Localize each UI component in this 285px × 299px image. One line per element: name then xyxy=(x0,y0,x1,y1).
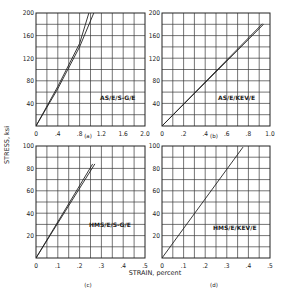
x-tick-label: .4 xyxy=(55,130,61,138)
x-tick-label: .4 xyxy=(246,262,252,270)
x-tick-label: .4 xyxy=(202,130,208,138)
x-tick-label: .8 xyxy=(246,130,252,138)
panel-caption: (a) xyxy=(84,133,92,139)
y-tick-label: 80 xyxy=(27,165,35,173)
x-tick-label: .1 xyxy=(181,262,187,270)
y-tick-label: 120 xyxy=(23,55,34,63)
y-tick-label: 40 xyxy=(153,210,161,218)
y-tick-label: 40 xyxy=(153,100,161,108)
x-tick-label: 1.2 xyxy=(97,130,107,138)
y-axis-label: STRESS, ksi xyxy=(3,126,11,164)
x-tick-label: 1.6 xyxy=(119,130,129,138)
y-tick-label: 80 xyxy=(153,165,161,173)
x-tick-label: .3 xyxy=(99,262,105,270)
chart-panel-d: 0.1.2.3.4.520406080100HMS/E/KEV/E(d) xyxy=(149,142,273,288)
material-annotation: HMS/E/KEV/E xyxy=(213,224,256,231)
x-axis-label: STRAIN, percent xyxy=(129,269,182,277)
panel-caption: (d) xyxy=(210,282,218,288)
y-tick-label: 20 xyxy=(27,232,35,240)
panel-caption: (b) xyxy=(210,133,218,139)
y-tick-label: 200 xyxy=(149,9,160,17)
chart-panel-a: 0.4.81.21.62.04080120160200AS/E/S-G/E(a) xyxy=(23,9,150,139)
x-tick-label: 2.0 xyxy=(140,130,150,138)
y-tick-label: 20 xyxy=(153,232,161,240)
x-tick-label: .3 xyxy=(224,262,230,270)
x-tick-label: .1 xyxy=(55,262,61,270)
y-tick-label: 80 xyxy=(27,77,35,85)
figure-stress-strain: 0.4.81.21.62.04080120160200AS/E/S-G/E(a)… xyxy=(0,0,285,299)
x-tick-label: 0 xyxy=(34,130,38,138)
material-annotation: HMS/E/S-G/E xyxy=(89,221,131,228)
y-tick-label: 80 xyxy=(153,77,161,85)
x-tick-label: 0 xyxy=(34,262,38,270)
y-tick-label: 60 xyxy=(27,187,35,195)
x-tick-label: .5 xyxy=(267,262,273,270)
y-tick-label: 40 xyxy=(27,100,35,108)
panels-group: 0.4.81.21.62.04080120160200AS/E/S-G/E(a)… xyxy=(23,9,275,288)
y-tick-label: 40 xyxy=(27,210,35,218)
x-tick-label: .4 xyxy=(120,262,126,270)
x-tick-label: .6 xyxy=(224,130,230,138)
y-tick-label: 100 xyxy=(23,142,34,150)
chart-panel-c: 0.1.2.3.4.520406080100HMS/E/S-G/E(c) xyxy=(23,142,148,288)
x-tick-label: 1.0 xyxy=(265,130,275,138)
grid-lines xyxy=(36,146,145,258)
data-series-line xyxy=(36,164,95,258)
chart-panel-b: 0.2.4.6.81.04080120160200AS/E/KEV/E(b) xyxy=(149,9,275,139)
x-tick-label: .8 xyxy=(77,130,83,138)
y-tick-label: 120 xyxy=(149,55,160,63)
grid-lines xyxy=(162,146,270,258)
y-tick-label: 160 xyxy=(23,32,34,40)
x-tick-label: .2 xyxy=(202,262,208,270)
y-tick-label: 60 xyxy=(153,187,161,195)
data-series-line xyxy=(162,147,243,258)
panel-caption: (c) xyxy=(84,282,91,288)
x-tick-label: .2 xyxy=(181,130,187,138)
y-tick-label: 200 xyxy=(23,9,34,17)
x-tick-label: .2 xyxy=(77,262,83,270)
grid-lines xyxy=(36,13,145,126)
material-annotation: AS/E/S-G/E xyxy=(100,94,135,101)
x-tick-label: 0 xyxy=(160,130,164,138)
y-tick-label: 160 xyxy=(149,32,160,40)
y-tick-label: 100 xyxy=(149,142,160,150)
material-annotation: AS/E/KEV/E xyxy=(218,94,255,101)
